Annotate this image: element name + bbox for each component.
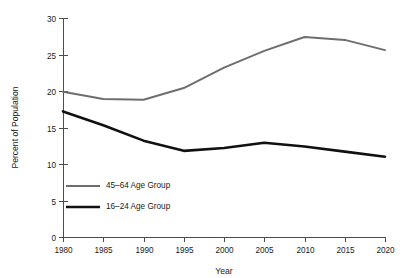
x-tick-label: 1990 bbox=[135, 246, 154, 255]
x-tick-label: 1980 bbox=[54, 246, 73, 255]
legend-label-2: 16–24 Age Group bbox=[106, 202, 171, 211]
series-line-1 bbox=[63, 37, 385, 100]
x-tick-label: 2015 bbox=[336, 246, 355, 255]
y-tick-label: 0 bbox=[51, 234, 56, 243]
y-tick-label: 15 bbox=[47, 125, 57, 134]
y-tick-label: 5 bbox=[51, 198, 56, 207]
chart-legend: 45–64 Age Group16–24 Age Group bbox=[66, 181, 171, 211]
chart-container: 051015202530 198019851990199520002005201… bbox=[0, 0, 418, 278]
y-axis-title: Percent of Population bbox=[10, 86, 20, 168]
x-tick-label: 1995 bbox=[175, 246, 194, 255]
series-line-2 bbox=[63, 111, 385, 156]
y-tick-label: 10 bbox=[47, 161, 57, 170]
y-tick-label: 30 bbox=[47, 15, 57, 24]
x-tick-label: 2005 bbox=[255, 246, 274, 255]
x-tick-label: 1985 bbox=[94, 246, 113, 255]
x-tick-label: 2020 bbox=[376, 246, 395, 255]
y-axis-tick-labels: 051015202530 bbox=[47, 15, 57, 243]
y-tick-label: 25 bbox=[47, 52, 57, 61]
y-tick-label: 20 bbox=[47, 88, 57, 97]
x-tick-label: 2010 bbox=[296, 246, 315, 255]
legend-label-1: 45–64 Age Group bbox=[106, 181, 171, 190]
data-series-group bbox=[63, 37, 385, 157]
x-axis-title: Year bbox=[215, 266, 233, 276]
x-axis-tick-labels: 198019851990199520002005201020152020 bbox=[54, 246, 395, 255]
line-chart: 051015202530 198019851990199520002005201… bbox=[0, 0, 418, 278]
x-tick-label: 2000 bbox=[215, 246, 234, 255]
